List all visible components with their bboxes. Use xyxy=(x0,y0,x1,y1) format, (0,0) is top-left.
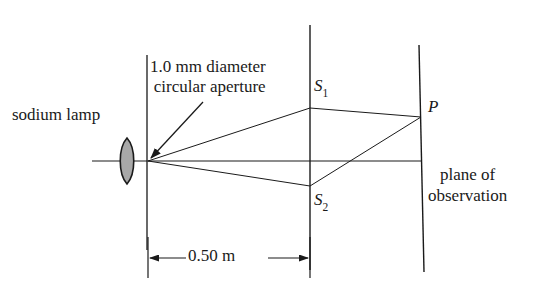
lens-shape xyxy=(120,138,134,184)
aperture-label: 1.0 mm diameter circular aperture xyxy=(150,57,266,98)
slit-1-symbol: S xyxy=(314,76,323,95)
slit-2-subscript: 2 xyxy=(323,201,329,213)
ray-aperture-to-slit2 xyxy=(148,161,310,186)
aperture-callout-arrow xyxy=(151,102,203,158)
optics-diagram: sodium lamp 1.0 mm diameter circular ape… xyxy=(0,0,554,295)
ray-slit2-to-point-p xyxy=(310,117,421,186)
aperture-label-line2: circular aperture xyxy=(150,77,266,97)
slit-2-symbol: S xyxy=(314,190,323,209)
observation-plane-line xyxy=(419,45,424,272)
observation-plane-line1: plane of xyxy=(428,165,507,186)
diagram-canvas xyxy=(0,0,554,295)
observation-plane-line2: observation xyxy=(428,186,507,207)
distance-label: 0.50 m xyxy=(188,246,235,265)
ray-slit1-to-point-p xyxy=(310,108,421,117)
slit-1-label: S1 xyxy=(314,76,328,98)
observation-plane-label: plane of observation xyxy=(428,165,507,206)
slit-2-label: S2 xyxy=(314,190,328,212)
point-p-label: P xyxy=(428,97,438,116)
sodium-lamp-label: sodium lamp xyxy=(12,105,100,124)
slit-1-subscript: 1 xyxy=(323,87,329,99)
aperture-label-line1: 1.0 mm diameter xyxy=(150,57,266,77)
